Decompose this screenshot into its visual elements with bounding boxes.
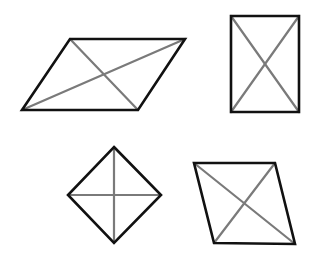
quadrilaterals-diagram — [0, 0, 315, 261]
shape-rhombus — [194, 163, 295, 244]
shape-rectangle — [231, 16, 299, 112]
diagonal-2 — [214, 163, 275, 243]
shape-square-rhombus — [68, 147, 161, 243]
shapes-layer — [22, 16, 299, 244]
shape-parallelogram — [22, 39, 185, 110]
